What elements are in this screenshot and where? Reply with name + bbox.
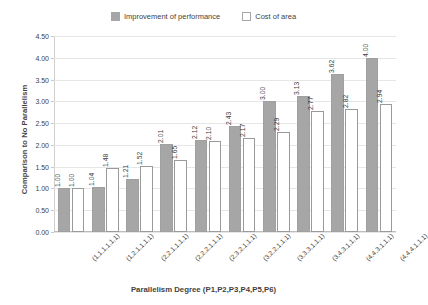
x-axis-tick-label: (2,2,2,1,1,1): [193, 232, 223, 262]
bar-group: 4.002.94: [362, 36, 396, 232]
x-axis-tick-label: (3,3,3,1,1,1): [296, 232, 326, 262]
x-axis-tick-label: (3,4,3,1,1,1): [330, 232, 360, 262]
bars-layer: 1.001.001.041.481.211.522.011.652.122.10…: [54, 36, 396, 232]
y-axis-tick-label: 2.00: [35, 141, 49, 148]
y-axis-tick-label: 0.50: [35, 207, 49, 214]
x-axis-tick-label: (1,2,1,1,1,1): [125, 232, 155, 262]
bar-value-label: 3.00: [259, 87, 266, 100]
legend-swatch-filled-icon: [111, 12, 120, 21]
bar-improvement-of-performance: 4.00: [366, 58, 379, 232]
chart-legend: Improvement of performance Cost of area: [0, 12, 407, 21]
bar-value-label: 3.13: [293, 81, 300, 94]
bar-value-label: 1.48: [102, 153, 109, 166]
bar-group: 2.122.10: [191, 36, 225, 232]
bar-group: 1.211.52: [122, 36, 156, 232]
legend-label-improvement-of-performance: Improvement of performance: [124, 12, 220, 21]
bar-cost-of-area: 1.65: [174, 160, 187, 232]
bar-value-label: 2.01: [157, 130, 164, 143]
bar-cost-of-area: 2.29: [277, 132, 290, 232]
y-axis-tick-label: 1.00: [35, 185, 49, 192]
y-axis-tick-label: 3.50: [35, 76, 49, 83]
bar-group: 1.001.00: [54, 36, 88, 232]
legend-swatch-hollow-icon: [242, 12, 251, 21]
x-axis-tick-label: (3,2,2,1,1,1): [262, 232, 292, 262]
legend-item-improvement-of-performance: Improvement of performance: [111, 12, 220, 21]
bar-cost-of-area: 2.17: [243, 138, 256, 233]
plot-area: 0.000.501.001.502.002.503.003.504.004.50…: [54, 36, 396, 232]
bar-cost-of-area: 1.00: [72, 188, 85, 232]
y-axis-tick-label: 4.50: [35, 33, 49, 40]
x-axis-tick-label: (2,2,1,1,1,1): [159, 232, 189, 262]
x-axis-tick-label: (4,4,3,1,1,1): [364, 232, 394, 262]
x-axis-title: Parallelism Degree (P1,P2,P3,P4,P5,P6): [0, 285, 407, 294]
y-axis-tick-label: 4.00: [35, 54, 49, 61]
bar-cost-of-area: 1.48: [106, 168, 119, 232]
legend-item-cost-of-area: Cost of area: [242, 12, 296, 21]
bar-cost-of-area: 2.82: [345, 109, 358, 232]
bar-group: 2.432.17: [225, 36, 259, 232]
y-axis-tick-label: 2.50: [35, 120, 49, 127]
bar-cost-of-area: 2.77: [311, 111, 324, 232]
bar-group: 3.622.82: [328, 36, 362, 232]
bar-improvement-of-performance: 2.43: [229, 126, 242, 232]
bar-value-label: 2.10: [205, 126, 212, 139]
bar-value-label: 3.62: [328, 60, 335, 73]
x-axis-tick-label: (4,4,4,1,1,1): [398, 232, 428, 262]
bar-cost-of-area: 1.52: [140, 166, 153, 232]
x-axis-tick-label: (1,1,1,1,1,1): [91, 232, 121, 262]
bar-value-label: 2.43: [225, 112, 232, 125]
bar-value-label: 2.12: [191, 125, 198, 138]
y-axis-tick-label: 0.00: [35, 229, 49, 236]
x-axis-tick-labels: (1,1,1,1,1,1)(1,2,1,1,1,1)(2,2,1,1,1,1)(…: [54, 232, 396, 284]
bar-value-label: 1.65: [171, 146, 178, 159]
x-axis-tick-label: (2,3,2,1,1,1): [227, 232, 257, 262]
bar-value-label: 2.94: [376, 90, 383, 103]
legend-label-cost-of-area: Cost of area: [255, 12, 296, 21]
bar-improvement-of-performance: 1.00: [58, 188, 71, 232]
bar-value-label: 4.00: [362, 44, 369, 57]
bar-value-label: 1.00: [54, 174, 61, 187]
y-axis-title: Comparison to No Parallelism: [20, 50, 29, 230]
bar-value-label: 2.82: [342, 95, 349, 108]
y-axis-tick-label: 3.00: [35, 98, 49, 105]
bar-improvement-of-performance: 1.21: [126, 179, 139, 232]
bar-improvement-of-performance: 2.12: [195, 140, 208, 232]
bar-group: 2.011.65: [157, 36, 191, 232]
bar-group: 3.002.29: [259, 36, 293, 232]
bar-value-label: 1.52: [136, 152, 143, 165]
bar-value-label: 2.77: [307, 97, 314, 110]
bar-improvement-of-performance: 1.04: [92, 187, 105, 232]
bar-group: 3.132.77: [293, 36, 327, 232]
bar-cost-of-area: 2.94: [380, 104, 393, 232]
y-axis-tick-label: 1.50: [35, 163, 49, 170]
bar-value-label: 1.21: [122, 165, 129, 178]
bar-value-label: 2.17: [239, 123, 246, 136]
bar-value-label: 1.04: [88, 172, 95, 185]
bar-value-label: 1.00: [68, 174, 75, 187]
bar-value-label: 2.29: [273, 118, 280, 131]
bar-group: 1.041.48: [88, 36, 122, 232]
bar-cost-of-area: 2.10: [209, 141, 222, 232]
bar-improvement-of-performance: 3.13: [297, 96, 310, 232]
